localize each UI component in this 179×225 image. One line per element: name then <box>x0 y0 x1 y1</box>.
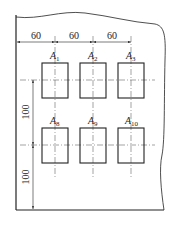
technical-drawing: 60 60 60 100 100 A1 A2 A3 A8 <box>0 0 179 225</box>
horizontal-centerlines <box>20 80 155 145</box>
row-1-labels: A1 A2 A3 <box>49 50 136 63</box>
row-2-labels: A8 A9 A10 <box>49 115 139 128</box>
dim-label-v1: 100 <box>20 105 31 120</box>
label-a1: A1 <box>49 50 60 63</box>
label-a9: A9 <box>87 115 98 128</box>
label-a10: A10 <box>124 115 139 128</box>
dim-label-h3: 60 <box>107 30 117 41</box>
vertical-dimensions: 100 100 <box>20 80 33 209</box>
label-a8: A8 <box>49 115 60 128</box>
label-a2: A2 <box>87 50 98 63</box>
dim-label-h1: 60 <box>31 30 41 41</box>
label-a3: A3 <box>125 50 136 63</box>
horizontal-dimensions: 60 60 60 <box>17 30 131 42</box>
dim-label-h2: 60 <box>69 30 79 41</box>
dim-label-v2: 100 <box>20 170 31 185</box>
